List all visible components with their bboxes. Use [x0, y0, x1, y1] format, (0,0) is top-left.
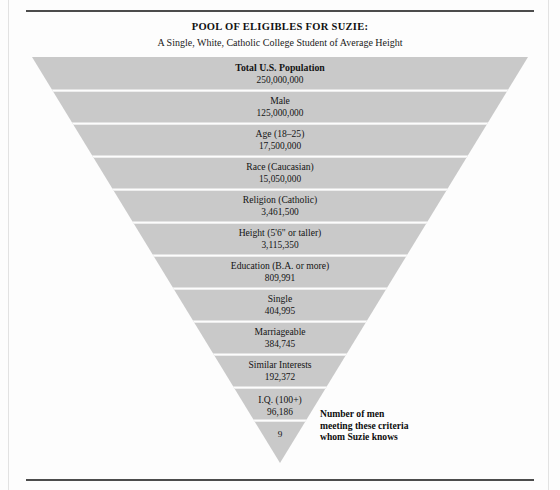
funnel-band: Height (5'6" or taller) 3,115,350 — [32, 227, 528, 251]
page-edge-left — [8, 0, 9, 490]
band-label: Age (18–25) — [32, 128, 528, 140]
funnel-annotation: Number of men meeting these criteria who… — [320, 408, 470, 443]
funnel-band: Age (18–25) 17,500,000 — [32, 128, 528, 152]
annotation-line-1: Number of men — [320, 408, 470, 420]
chart-title: POOL OF ELIGIBLES FOR SUZIE: — [26, 20, 534, 34]
band-value: 3,461,500 — [32, 206, 528, 218]
funnel-band: Religion (Catholic) 3,461,500 — [32, 194, 528, 218]
band-label: Total U.S. Population — [32, 62, 528, 74]
band-value: 250,000,000 — [32, 74, 528, 86]
funnel-chart: Total U.S. Population 250,000,000 Male 1… — [32, 57, 528, 463]
band-value: 192,372 — [32, 371, 528, 383]
band-value: 17,500,000 — [32, 140, 528, 152]
band-label: Height (5'6" or taller) — [32, 227, 528, 239]
band-value: 3,115,350 — [32, 239, 528, 251]
funnel-band: Male 125,000,000 — [32, 95, 528, 119]
band-label: Religion (Catholic) — [32, 194, 528, 206]
band-value: 15,050,000 — [32, 173, 528, 185]
funnel-band: Similar Interests 192,372 — [32, 359, 528, 383]
funnel-band: Race (Caucasian) 15,050,000 — [32, 161, 528, 185]
band-label: Marriageable — [32, 326, 528, 338]
page-edge-right — [548, 0, 549, 490]
band-value: 809,991 — [32, 272, 528, 284]
funnel-band: Single 404,995 — [32, 293, 528, 317]
band-value: 404,995 — [32, 305, 528, 317]
funnel-band: Marriageable 384,745 — [32, 326, 528, 350]
band-label: Education (B.A. or more) — [32, 260, 528, 272]
chart-title-block: POOL OF ELIGIBLES FOR SUZIE: A Single, W… — [26, 20, 534, 50]
band-label: Race (Caucasian) — [32, 161, 528, 173]
band-label: Male — [32, 95, 528, 107]
band-value: 384,745 — [32, 338, 528, 350]
band-label: Similar Interests — [32, 359, 528, 371]
funnel-band-labels: Total U.S. Population 250,000,000 Male 1… — [32, 57, 528, 463]
band-label: I.Q. (100+) — [32, 394, 528, 406]
annotation-line-2: meeting these criteria — [320, 420, 470, 432]
bottom-rule — [26, 479, 534, 481]
band-value: 125,000,000 — [32, 107, 528, 119]
top-rule — [26, 10, 534, 12]
band-label: Single — [32, 293, 528, 305]
funnel-band: Total U.S. Population 250,000,000 — [32, 62, 528, 86]
funnel-band: Education (B.A. or more) 809,991 — [32, 260, 528, 284]
annotation-line-3: whom Suzie knows — [320, 431, 470, 443]
page-canvas: POOL OF ELIGIBLES FOR SUZIE: A Single, W… — [0, 0, 560, 490]
chart-subtitle: A Single, White, Catholic College Studen… — [26, 35, 534, 50]
